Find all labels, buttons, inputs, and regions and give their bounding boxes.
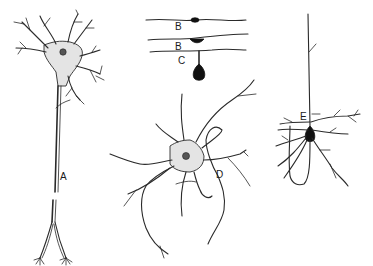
neuron-a: A	[14, 10, 104, 265]
neuron-diagram: A B B C D	[0, 0, 373, 266]
neuron-e: E	[276, 14, 360, 186]
label-b2: B	[175, 41, 182, 52]
label-b1: B	[175, 21, 182, 32]
label-a: A	[60, 171, 67, 182]
neuron-c: C	[150, 49, 246, 80]
neuron-b1: B	[146, 18, 246, 32]
label-c: C	[178, 55, 185, 66]
label-d: D	[216, 169, 223, 180]
label-e: E	[300, 111, 307, 122]
neuron-d: D	[110, 80, 256, 258]
